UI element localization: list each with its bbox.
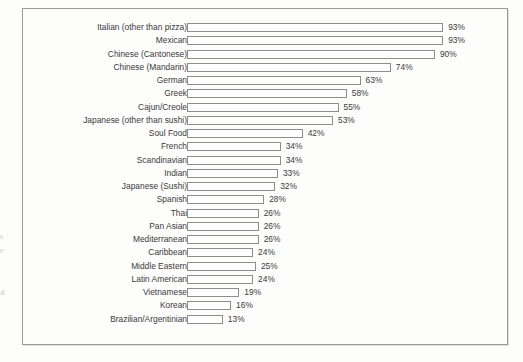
chart-page: s e al Italian (other than pizza)93%Mexi… [0,0,523,362]
bar [187,50,435,59]
category-label: Middle Eastern [0,260,187,273]
bar-row: Indian33% [23,167,509,180]
category-label: Chinese (Cantonese) [0,48,187,61]
bar-row: Mediterranean26% [23,233,509,246]
bar-value-label: 33% [283,168,300,179]
bar-row: Greek58% [23,87,509,100]
bar-value-label: 26% [264,221,281,232]
category-label: Mexican [0,34,187,47]
bar [187,116,333,125]
category-label: Vietnamese [0,286,187,299]
bar [187,76,361,85]
category-label: Spanish [0,193,187,206]
bar-row: Mexican93% [23,34,509,47]
category-label: Japanese (Sushi) [0,180,187,193]
bar-row: Middle Eastern25% [23,260,509,273]
category-label: Mediterranean [0,233,187,246]
bar [187,63,391,72]
bar-value-label: 90% [440,49,457,60]
bar-row: Chinese (Mandarin)74% [23,61,509,74]
bar-row: German63% [23,74,509,87]
bar-value-label: 53% [338,115,355,126]
bar-row: French34% [23,140,509,153]
bar-row: Latin American24% [23,273,509,286]
bar [187,301,231,310]
bar-chart-plot-area: Italian (other than pizza)93%Mexican93%C… [23,9,509,346]
chart-frame: Italian (other than pizza)93%Mexican93%C… [22,8,508,345]
bar-row: Brazilian/Argentinian13% [23,313,509,326]
bar-value-label: 58% [352,88,369,99]
bar-value-label: 26% [264,208,281,219]
bar-row: Pan Asian26% [23,220,509,233]
bar-row: Thai26% [23,207,509,220]
bar [187,23,443,32]
bar-value-label: 19% [244,287,261,298]
bar-value-label: 55% [344,102,361,113]
bar [187,275,253,284]
bar-value-label: 74% [396,62,413,73]
category-label: Chinese (Mandarin) [0,61,187,74]
bar [187,195,264,204]
bar-value-label: 24% [258,247,275,258]
bar [187,222,259,231]
bar [187,156,281,165]
bar-row: Japanese (Sushi)32% [23,180,509,193]
bar [187,129,303,138]
category-label: Pan Asian [0,220,187,233]
bar-row: Chinese (Cantonese)90% [23,48,509,61]
category-label: Soul Food [0,127,187,140]
category-label: Caribbean [0,246,187,259]
bar-value-label: 28% [269,194,286,205]
category-label: Indian [0,167,187,180]
category-label: Italian (other than pizza) [0,21,187,34]
bar-row: Vietnamese19% [23,286,509,299]
bar-row: Italian (other than pizza)93% [23,21,509,34]
bar-value-label: 13% [228,314,245,325]
bar-value-label: 93% [448,35,465,46]
bar [187,209,259,218]
bar-value-label: 24% [258,274,275,285]
bar [187,182,275,191]
bar-value-label: 34% [286,141,303,152]
bar-row: Spanish28% [23,193,509,206]
bar-row: Japanese (other than sushi)53% [23,114,509,127]
bar [187,262,256,271]
category-label: German [0,74,187,87]
bar-value-label: 63% [366,75,383,86]
bar [187,89,347,98]
category-label: Thai [0,207,187,220]
bar-value-label: 32% [280,181,297,192]
category-label: Greek [0,87,187,100]
category-label: Cajun/Creole [0,101,187,114]
bar-value-label: 16% [236,300,253,311]
bar [187,36,443,45]
bar-row: Cajun/Creole55% [23,101,509,114]
bar [187,248,253,257]
bar-value-label: 34% [286,155,303,166]
category-label: Scandinavian [0,154,187,167]
bar [187,142,281,151]
bar-row: Soul Food42% [23,127,509,140]
bar-value-label: 26% [264,234,281,245]
bar-value-label: 42% [308,128,325,139]
bar-value-label: 93% [448,22,465,33]
bar [187,288,239,297]
bar [187,315,223,324]
category-label: French [0,140,187,153]
category-label: Latin American [0,273,187,286]
bar-row: Scandinavian34% [23,154,509,167]
bar [187,235,259,244]
bar-value-label: 25% [261,261,278,272]
bar [187,169,278,178]
bar-row: Korean16% [23,299,509,312]
category-label: Brazilian/Argentinian [0,313,187,326]
bar-row: Caribbean24% [23,246,509,259]
bar [187,103,339,112]
category-label: Japanese (other than sushi) [0,114,187,127]
category-label: Korean [0,299,187,312]
